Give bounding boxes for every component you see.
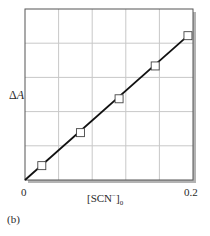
plot-area (25, 9, 193, 180)
x-tick-min: 0 (21, 187, 27, 198)
x-axis-label-subscript: 0 (120, 199, 124, 207)
data-point-square-marker (151, 62, 159, 70)
x-axis-label-main: [SCN (87, 192, 112, 204)
x-axis-label: [SCN−]0 (87, 193, 123, 207)
y-axis-label: ΔA (9, 89, 24, 101)
data-point-square-marker (76, 129, 84, 137)
data-point-square-marker (38, 162, 46, 170)
x-tick-max: 0.2 (184, 187, 198, 198)
delta-symbol: Δ (9, 88, 17, 102)
data-point-square-marker (115, 95, 123, 103)
panel-label: (b) (7, 214, 20, 225)
y-axis-variable: A (17, 88, 24, 102)
data-point-square-marker (184, 32, 192, 40)
